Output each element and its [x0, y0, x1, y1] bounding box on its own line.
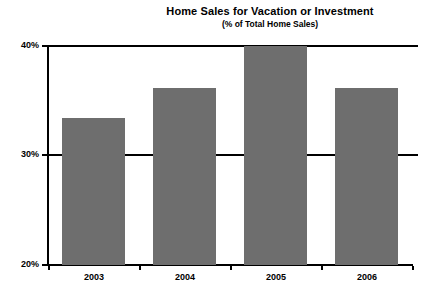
y-axis-label-20: 20%	[3, 260, 39, 269]
bar-2003	[62, 118, 125, 265]
y-axis-label-40: 40%	[3, 41, 39, 50]
x-tick-0	[48, 266, 50, 270]
x-axis-label-2005: 2005	[244, 272, 308, 282]
x-tick-2	[230, 266, 232, 270]
y-axis-line	[47, 46, 49, 266]
chart-container: Home Sales for Vacation or Investment (%…	[0, 0, 424, 294]
x-tick-1	[139, 266, 141, 270]
y-axis-label-30: 30%	[3, 150, 39, 159]
y-tick-30	[42, 154, 48, 156]
bar-2004	[153, 88, 216, 265]
bar-2005	[244, 46, 307, 265]
gridline-40	[47, 45, 418, 47]
plot-area: 40% 30% 20% 2003 2004 2005 2006	[0, 0, 424, 294]
x-tick-3	[321, 266, 323, 270]
y-tick-40	[42, 45, 48, 47]
x-axis-label-2006: 2006	[335, 272, 399, 282]
x-axis-label-2004: 2004	[153, 272, 217, 282]
bar-2006	[335, 88, 398, 265]
x-tick-4	[412, 266, 414, 270]
x-axis-label-2003: 2003	[62, 272, 126, 282]
